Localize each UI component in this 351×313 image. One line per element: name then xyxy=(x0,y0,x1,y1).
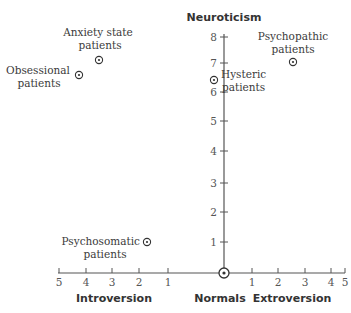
point-label: patients xyxy=(222,81,265,93)
circled-dot-center xyxy=(222,271,225,274)
normals-label: Normals xyxy=(194,292,246,305)
y-tick-label: 7 xyxy=(210,57,217,69)
y-axis-title: Neuroticism xyxy=(187,11,262,24)
point-label: patients xyxy=(17,77,60,89)
x-tick-label: 2 xyxy=(275,276,282,288)
point-psychopathic: Psychopathic patients xyxy=(258,30,328,66)
point-label: patients xyxy=(83,248,126,260)
x-tick-label: 2 xyxy=(136,276,143,288)
point-anxiety: Anxiety state patients xyxy=(62,26,133,64)
point-label: Anxiety state xyxy=(62,26,133,38)
y-tick-label: 4 xyxy=(210,145,217,157)
x-ticks: 5 4 3 2 1 1 2 3 4 5 xyxy=(56,268,349,288)
circled-dot-center xyxy=(98,59,100,61)
circled-dot-center xyxy=(78,74,80,76)
point-label: Psychosomatic xyxy=(62,235,141,247)
point-label: Hysteric xyxy=(221,68,266,80)
x-tick-label: 1 xyxy=(249,276,256,288)
introversion-label: Introversion xyxy=(76,292,152,305)
point-label: patients xyxy=(78,39,121,51)
circled-dot-center xyxy=(292,61,294,63)
y-tick-label: 5 xyxy=(210,115,217,127)
y-tick-label: 3 xyxy=(210,177,217,189)
x-tick-label: 3 xyxy=(302,276,309,288)
point-label: Obsessional xyxy=(6,64,70,76)
personality-chart: Neuroticism 8 7 6 5 4 3 2 1 5 4 3 2 1 xyxy=(0,0,351,313)
extroversion-label: Extroversion xyxy=(253,292,332,305)
point-psychosomatic: Psychosomatic patients xyxy=(62,235,151,260)
y-tick-label: 2 xyxy=(210,206,217,218)
point-label: patients xyxy=(271,43,314,55)
x-tick-label: 5 xyxy=(56,276,63,288)
x-tick-label: 5 xyxy=(342,276,349,288)
circled-dot-center xyxy=(146,241,148,243)
x-tick-label: 1 xyxy=(165,276,172,288)
point-obsessional: Obsessional patients xyxy=(6,64,82,89)
x-tick-label: 4 xyxy=(328,276,335,288)
point-hysteric: Hysteric patients xyxy=(210,68,266,93)
y-tick-label: 6 xyxy=(210,86,217,98)
y-tick-label: 1 xyxy=(210,236,217,248)
y-ticks: 8 7 6 5 4 3 2 1 xyxy=(210,31,228,248)
point-label: Psychopathic xyxy=(258,30,328,42)
x-tick-label: 3 xyxy=(109,276,116,288)
x-tick-label: 4 xyxy=(83,276,90,288)
y-tick-label: 8 xyxy=(210,31,217,43)
circled-dot-center xyxy=(213,79,215,81)
point-normals xyxy=(219,268,229,278)
